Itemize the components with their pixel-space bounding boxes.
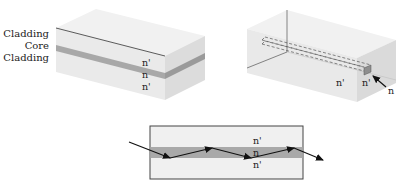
channel-core-label: n [388,85,394,96]
label-core: Core [25,40,49,51]
channel-waveguide [247,10,396,102]
slab-index-lower-cladding: n' [142,81,151,92]
slab-waveguide [56,9,205,100]
label-cladding-bottom: Cladding [3,52,49,63]
ray-core-band [151,147,303,158]
label-cladding-top: Cladding [3,28,49,39]
ray-index-lower: n' [253,159,262,170]
ray-index-core: n [253,147,259,158]
channel-index-right: n' [362,77,371,88]
slab-index-core: n [142,69,148,80]
waveguide-diagram: Cladding Core Cladding n' n n' n' n' n [0,0,406,194]
slab-index-upper-cladding: n' [142,57,151,68]
channel-index-left: n' [336,77,345,88]
ray-index-upper: n' [253,135,262,146]
ray-diagram [129,126,323,179]
